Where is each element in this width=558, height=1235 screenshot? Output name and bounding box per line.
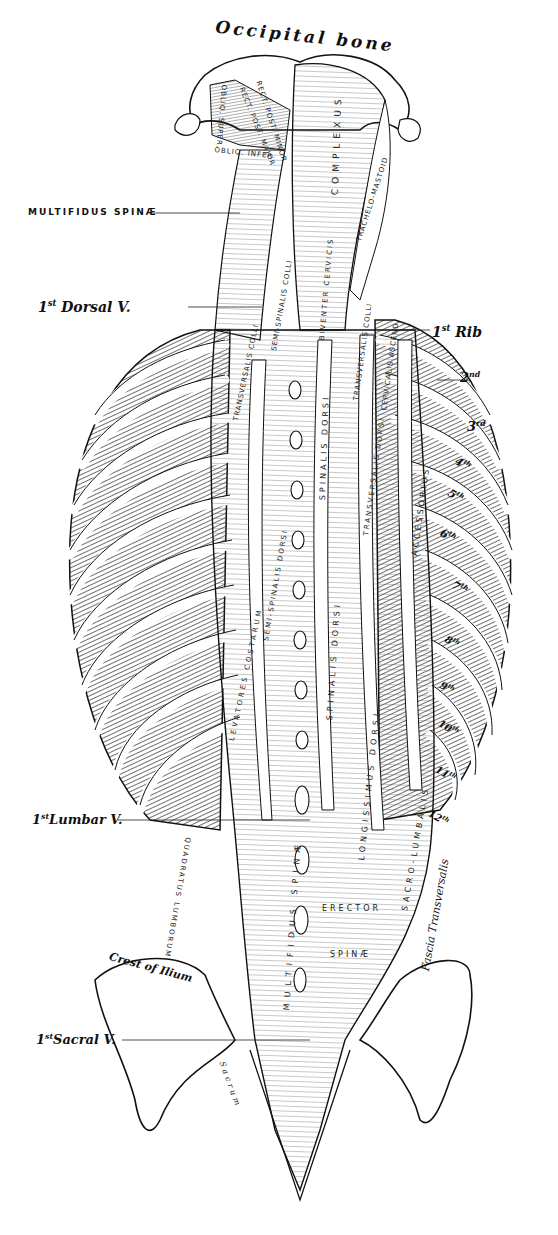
label-number: 3: [467, 419, 476, 434]
erector-label: ERECTOR: [322, 904, 381, 913]
label-ordinal: st: [442, 323, 451, 333]
rib-label-3: 3rd: [467, 420, 486, 433]
label-number: 1: [38, 299, 48, 315]
back-muscles-illustration: [0, 0, 558, 1235]
rib-label-2: 2nd: [460, 371, 480, 384]
label-text: Dorsal V.: [61, 299, 130, 315]
label-ordinal: st: [41, 812, 49, 821]
label-number: 2: [460, 370, 469, 385]
label-number: 1: [32, 812, 41, 827]
spinae-label: SPINÆ: [330, 950, 371, 959]
first-lumbar-vertebra-label: 1stLumbar V.: [32, 813, 123, 826]
label-text: Rib: [455, 324, 482, 340]
multifidus-spinae-label: MULTIFIDUS SPINÆ: [28, 208, 158, 217]
label-text: Sacral V.: [53, 1032, 116, 1047]
first-rib-label: 1st Rib: [432, 324, 482, 339]
label-ordinal: st: [48, 298, 57, 308]
first-dorsal-vertebra-label: 1st Dorsal V.: [38, 299, 131, 314]
label-ordinal: st: [45, 1032, 53, 1041]
first-sacral-vertebra-label: 1stSacral V.: [36, 1033, 116, 1046]
label-ordinal: nd: [469, 370, 480, 379]
label-number: 1: [432, 324, 442, 340]
neck-muscles: [210, 64, 390, 340]
label-number: 1: [36, 1032, 45, 1047]
label-text: Lumbar V.: [49, 812, 123, 827]
label-ordinal: rd: [476, 419, 486, 428]
